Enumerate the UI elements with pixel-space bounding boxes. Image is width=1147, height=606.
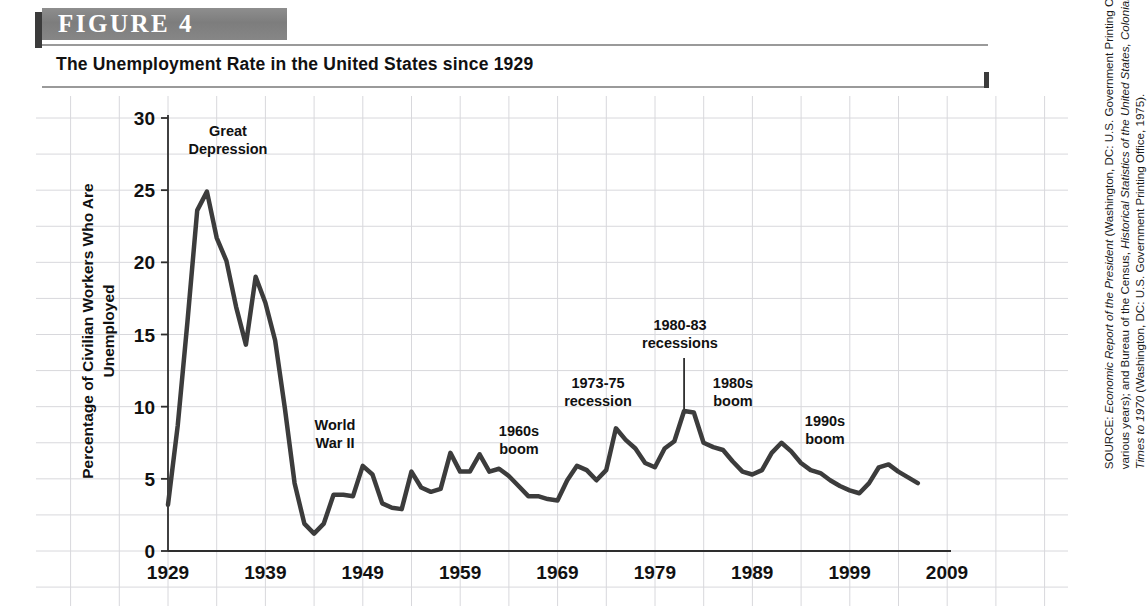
annotation-1973-75-recession: 1973-75 recession (538, 374, 658, 410)
svg-text:1949: 1949 (342, 562, 384, 583)
title-rule-top (42, 44, 988, 46)
chart-plot-area: 0510152025301929193919491959196919791989… (0, 96, 1068, 606)
svg-text:15: 15 (134, 325, 156, 346)
svg-text:0: 0 (144, 541, 155, 562)
figure-header-band: FIGURE 4 (42, 8, 287, 40)
svg-text:2009: 2009 (926, 562, 968, 583)
svg-text:5: 5 (144, 469, 155, 490)
annotation-1980s-boom: 1980s boom (684, 374, 782, 410)
svg-text:1999: 1999 (828, 562, 870, 583)
annotation-1960s-boom: 1960s boom (470, 422, 568, 458)
svg-text:1959: 1959 (439, 562, 481, 583)
svg-text:1939: 1939 (244, 562, 286, 583)
title-rule-end-cap (984, 72, 989, 88)
grid-lines (36, 96, 1068, 606)
source-text-2: (Washington, DC: U.S. Government Printin… (1133, 94, 1146, 396)
svg-text:10: 10 (134, 397, 155, 418)
annotation-great-depression: Great Depression (168, 122, 288, 158)
svg-text:1929: 1929 (147, 562, 189, 583)
svg-text:25: 25 (134, 180, 156, 201)
svg-text:1989: 1989 (731, 562, 773, 583)
svg-text:30: 30 (134, 108, 155, 129)
svg-text:1979: 1979 (634, 562, 676, 583)
source-prefix: SOURCE: (1102, 413, 1115, 469)
data-series-line (168, 192, 918, 534)
annotation-1980-83-recessions: 1980-83 recessions (612, 316, 748, 352)
annotation-world-war-ii: World War II (290, 416, 380, 452)
title-rule-bottom (42, 86, 988, 88)
chart-axes (161, 115, 951, 551)
figure-label: FIGURE 4 (42, 10, 194, 38)
annotation-1990s-boom: 1990s boom (776, 412, 874, 448)
axis-tick-labels: 0510152025301929193919491959196919791989… (134, 108, 968, 583)
svg-text:20: 20 (134, 252, 155, 273)
figure-title: The Unemployment Rate in the United Stat… (56, 54, 533, 75)
source-title-1: Economic Report of the President (1102, 240, 1115, 413)
unemployment-line-chart: 0510152025301929193919491959196919791989… (0, 96, 1068, 606)
svg-text:1969: 1969 (536, 562, 578, 583)
source-note: SOURCE: Economic Report of the President… (1101, 0, 1147, 469)
